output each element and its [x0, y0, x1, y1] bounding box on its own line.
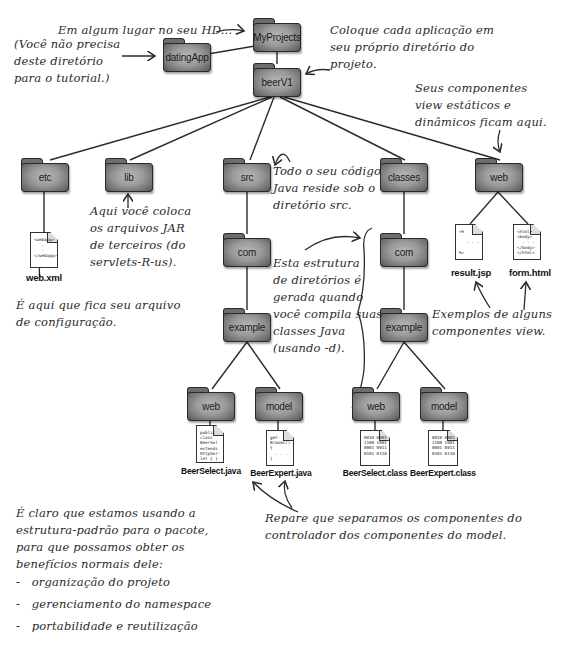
- benefit-item: - organização do projeto: [16, 574, 170, 591]
- file-web-xml[interactable]: <webapp> . . </webapp>: [30, 232, 58, 268]
- annotation-dating-app: (Você não precisa deste diretório para o…: [14, 36, 120, 87]
- file-form-html[interactable]: <html> <body> . . . </body> </html>: [513, 224, 541, 260]
- file-beerselect-class[interactable]: 0010 0001 1100 1001 0001 0011 0101 0110: [360, 430, 390, 466]
- folder-src-model[interactable]: model: [255, 387, 303, 421]
- folder-src-web[interactable]: web: [187, 387, 235, 421]
- annotation-src: Todo o seu código Java reside sob o dire…: [273, 163, 381, 214]
- annotation-package: É claro que estamos usando a estrutura-p…: [16, 505, 209, 573]
- benefit-item: - gerenciamento do namespace: [16, 596, 211, 613]
- folder-classes-model[interactable]: model: [420, 387, 468, 421]
- file-preview: public class BeerSel extends HttpSer- le…: [200, 430, 220, 461]
- folder-label: datingApp: [165, 52, 208, 63]
- annotation-view-examples: Exemplos de alguns componentes view.: [432, 306, 552, 340]
- folder-classes-example[interactable]: example: [380, 308, 428, 342]
- folder-label: web: [202, 401, 220, 412]
- folder-label: example: [386, 322, 422, 333]
- file-name-web-xml: web.xml: [26, 272, 62, 283]
- file-preview: 0010 0001 1100 1001 0001 0011 0101 0110: [364, 435, 387, 456]
- folder-label: com: [238, 247, 256, 258]
- folder-label: etc: [39, 172, 52, 183]
- folder-datingapp[interactable]: datingApp: [163, 38, 211, 72]
- file-name-beerselect-java: BeerSelect.java: [181, 466, 241, 476]
- file-preview: get- Brands() { . . . }: [270, 435, 290, 461]
- folder-web-root[interactable]: web: [475, 158, 523, 192]
- folder-label: model: [431, 401, 457, 412]
- folder-label: classes: [388, 172, 420, 183]
- file-beerexpert-java[interactable]: get- Brands() { . . . }: [266, 430, 294, 466]
- file-beerexpert-class[interactable]: 0010 0001 1100 1001 0001 0011 0101 0110: [428, 430, 458, 466]
- folder-label: web: [367, 401, 385, 412]
- file-preview: <% . . . %>: [459, 229, 479, 255]
- folder-label: lib: [124, 172, 133, 183]
- folder-etc[interactable]: etc: [21, 158, 69, 192]
- annotation-config: É aqui que fica seu arquivo de configura…: [16, 297, 181, 331]
- folder-label: MyProjects: [253, 32, 300, 43]
- annotation-generated: Esta estrutura de diretórios é gerada qu…: [273, 255, 382, 357]
- folder-label: com: [395, 247, 413, 258]
- folder-classes[interactable]: classes: [380, 158, 428, 192]
- directory-structure-diagram: MyProjects datingApp beerV1 etc lib src …: [0, 0, 561, 657]
- file-preview: <webapp> . . </webapp>: [34, 237, 57, 258]
- file-beerselect-java[interactable]: public class BeerSel extends HttpSer- le…: [196, 425, 224, 463]
- folder-label: model: [266, 401, 292, 412]
- file-preview: <html> <body> . . . </body> </html>: [517, 229, 535, 255]
- annotation-jar: Aqui você coloca os arquivos JAR de terc…: [90, 203, 191, 271]
- annotation-view-components: Seus componentes view estáticos e dinâmi…: [415, 80, 547, 131]
- folder-src-com[interactable]: com: [223, 233, 271, 267]
- benefit-item: - portabilidade e reutilização: [16, 618, 198, 635]
- annotation-each-app: Coloque cada aplicação em seu próprio di…: [330, 22, 494, 73]
- folder-label: web: [490, 172, 508, 183]
- folder-classes-web[interactable]: web: [352, 387, 400, 421]
- folder-classes-com[interactable]: com: [380, 233, 428, 267]
- folder-label: beerV1: [261, 77, 292, 88]
- file-result-jsp[interactable]: <% . . . %>: [455, 224, 483, 260]
- file-name-form-html: form.html: [509, 267, 551, 278]
- file-name-beerselect-class: BeerSelect.class: [343, 468, 407, 478]
- folder-src-example[interactable]: example: [223, 308, 271, 342]
- folder-beerv1[interactable]: beerV1: [253, 63, 301, 97]
- folder-lib[interactable]: lib: [105, 158, 153, 192]
- folder-src[interactable]: src: [223, 158, 271, 192]
- file-name-beerexpert-class: BeerExpert.class: [410, 468, 476, 478]
- folder-label: example: [229, 322, 265, 333]
- folder-myprojects[interactable]: MyProjects: [253, 18, 301, 52]
- folder-label: src: [241, 172, 254, 183]
- annotation-separation: Repare que separamos os componentes do c…: [265, 510, 522, 544]
- file-preview: 0010 0001 1100 1001 0001 0011 0101 0110: [432, 435, 455, 456]
- file-name-beerexpert-java: BeerExpert.java: [250, 468, 311, 478]
- file-name-result-jsp: result.jsp: [451, 267, 491, 278]
